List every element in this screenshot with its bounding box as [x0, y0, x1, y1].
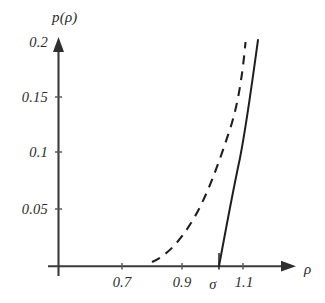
- x-tick-label-0-7: 0.7: [113, 275, 132, 290]
- y-tick-label-0-1: 0.1: [15, 145, 48, 160]
- y-axis-title: p(ρ): [52, 10, 78, 25]
- x-tick-label-sigma: σ: [209, 277, 216, 292]
- x-tick-label-0-9: 0.9: [173, 275, 192, 290]
- y-tick-label-0-2: 0.2: [15, 35, 48, 50]
- plot-canvas: [0, 0, 325, 303]
- x-axis-arrow-icon: [281, 261, 296, 272]
- x-tick-label-1-1: 1.1: [235, 275, 254, 290]
- y-tick-label-0-05: 0.05: [6, 202, 48, 217]
- y-axis-arrow-icon: [53, 37, 64, 52]
- solid-curve: [219, 40, 258, 266]
- y-tick-label-0-15: 0.15: [9, 90, 48, 105]
- chart-figure: p(ρ) 0.2 0.15 0.1 0.05 0.7 0.9 σ 1.1 ρ: [0, 0, 325, 303]
- x-axis-title: ρ: [304, 262, 311, 277]
- dashed-curve: [152, 42, 246, 262]
